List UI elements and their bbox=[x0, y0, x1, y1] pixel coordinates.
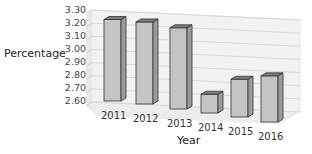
x-axis-label: Year bbox=[177, 134, 200, 147]
y-tick: 2.90 bbox=[56, 56, 86, 67]
x-tick: 2013 bbox=[167, 118, 192, 129]
y-tick: 2.70 bbox=[56, 82, 86, 93]
y-tick: 3.20 bbox=[56, 17, 86, 28]
x-tick: 2012 bbox=[133, 113, 158, 124]
y-tick: 3.10 bbox=[56, 30, 86, 41]
y-tick: 3.00 bbox=[56, 43, 86, 54]
bar-chart: Percentage Year 3.30 3.20 3.10 3.00 2.90… bbox=[0, 0, 312, 154]
x-tick: 2015 bbox=[228, 126, 253, 137]
x-tick: 2014 bbox=[198, 122, 223, 133]
y-tick: 2.80 bbox=[56, 69, 86, 80]
y-tick: 3.30 bbox=[56, 4, 86, 15]
x-tick: 2016 bbox=[258, 131, 283, 142]
y-tick: 2.60 bbox=[56, 95, 86, 106]
x-tick: 2011 bbox=[101, 110, 126, 121]
